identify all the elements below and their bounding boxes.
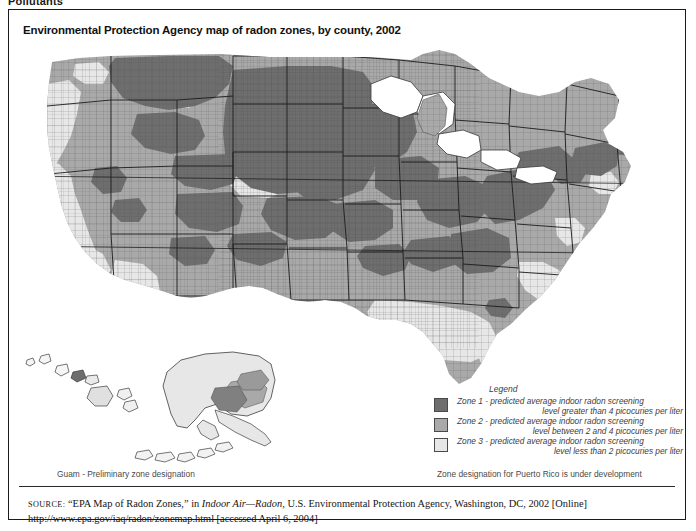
legend-swatch-zone-3 (434, 438, 448, 452)
legend-swatch-zone-1 (434, 398, 448, 412)
clipped-page-heading: Pollutants (8, 0, 63, 5)
figure-title: Environmental Protection Agency map of r… (23, 24, 401, 36)
legend-swatch-zone-2 (434, 418, 448, 432)
figure-box: Environmental Protection Agency map of r… (8, 9, 686, 520)
legend-zone-2-line-2: level between 2 and 4 picocuries per lit… (457, 427, 683, 437)
source-divider (19, 486, 675, 487)
legend-item-zone-3: Zone 3 - predicted average indoor radon … (427, 437, 685, 456)
legend-zone-1-line-2: level greater than 4 picocuries per lite… (457, 407, 683, 417)
legend-item-zone-1: Zone 1 - predicted average indoor radon … (427, 397, 685, 416)
source-publisher: U.S. Environmental Protection Agency, Wa… (287, 498, 587, 509)
source-in-word: in (191, 498, 199, 509)
source-label: SOURCE: (28, 500, 65, 509)
note-puerto-rico: Zone designation for Puerto Rico is unde… (437, 469, 642, 479)
source-quoted-title: “EPA Map of Radon Zones,” (68, 498, 189, 509)
legend-item-zone-2: Zone 2 - predicted average indoor radon … (427, 417, 685, 436)
note-guam: Guam - Preliminary zone designation (57, 469, 195, 479)
source-publication: Indoor Air—Radon, (202, 498, 285, 509)
legend-title: Legend (489, 384, 685, 394)
source-line-2: http://www.epa.gov/iaq/radon/zonemap.htm… (28, 512, 678, 526)
source-line-1: SOURCE: “EPA Map of Radon Zones,” in Ind… (28, 497, 678, 512)
map-legend: Legend Zone 1 - predicted average indoor… (427, 384, 685, 458)
legend-zone-3-line-2: level less than 2 picocuries per liter (457, 447, 683, 457)
source-block: SOURCE: “EPA Map of Radon Zones,” in Ind… (28, 497, 678, 526)
